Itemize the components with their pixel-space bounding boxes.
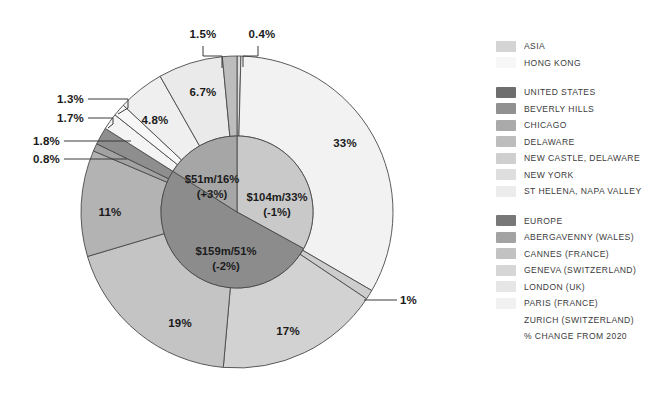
legend-swatch xyxy=(496,87,516,98)
slice-percent-label: 1.5% xyxy=(189,28,216,40)
legend-item-label: DELAWARE xyxy=(524,137,575,147)
slice-percent-label: 0.8% xyxy=(33,153,60,165)
legend-item[interactable]: HONG KONG xyxy=(496,55,652,72)
slice-percent-label: 1% xyxy=(400,294,417,306)
legend-item[interactable]: CANNES (FRANCE) xyxy=(496,246,652,263)
legend-item-label: ABERGAVENNY (WALES) xyxy=(524,232,634,242)
slice-percent-label: 1.8% xyxy=(33,135,60,147)
legend-swatch xyxy=(496,331,516,342)
legend-item[interactable]: GENEVA (SWITZERLAND) xyxy=(496,262,652,279)
region-amount: $159m/51% xyxy=(196,245,257,257)
legend-group-asia-group: ASIAHONG KONG xyxy=(496,38,652,71)
legend-item[interactable]: NEW YORK xyxy=(496,167,652,184)
legend-group-united-states-group: UNITED STATESBEVERLY HILLSCHICAGODELAWAR… xyxy=(496,84,652,200)
legend-item-label: CANNES (FRANCE) xyxy=(524,249,609,259)
legend-item[interactable]: ST HELENA, NAPA VALLEY xyxy=(496,183,652,200)
slice-percent-label: 11% xyxy=(99,206,122,218)
legend-swatch xyxy=(496,103,516,114)
legend-swatch xyxy=(496,314,516,325)
legend-swatch xyxy=(496,298,516,309)
legend-swatch xyxy=(496,232,516,243)
legend-swatch xyxy=(496,215,516,226)
legend-swatch xyxy=(496,41,516,52)
legend-item-label: ASIA xyxy=(524,41,545,51)
legend-item[interactable]: % CHANGE FROM 2020 xyxy=(496,328,652,345)
legend-swatch xyxy=(496,186,516,197)
slice-percent-label: 4.8% xyxy=(141,114,168,126)
legend-item-label: UNITED STATES xyxy=(524,87,596,97)
legend-item-label: CHICAGO xyxy=(524,120,567,130)
legend-swatch xyxy=(496,120,516,131)
legend-swatch xyxy=(496,57,516,68)
region-amount: $51m/16% xyxy=(185,173,240,185)
legend-swatch xyxy=(496,281,516,292)
slice-percent-label: 17% xyxy=(276,325,300,337)
legend-item-label: NEW YORK xyxy=(524,170,574,180)
legend-item[interactable]: BEVERLY HILLS xyxy=(496,101,652,118)
legend-item[interactable]: DELAWARE xyxy=(496,134,652,151)
slice-percent-label: 1.3% xyxy=(57,93,84,105)
region-change: (-2%) xyxy=(212,260,240,272)
legend-item[interactable]: PARIS (FRANCE) xyxy=(496,295,652,312)
legend-item-label: PARIS (FRANCE) xyxy=(524,298,598,308)
legend-group-europe-group: EUROPEABERGAVENNY (WALES)CANNES (FRANCE)… xyxy=(496,213,652,345)
legend-swatch xyxy=(496,169,516,180)
legend-item-label: ST HELENA, NAPA VALLEY xyxy=(524,186,642,196)
legend-item-label: LONDON (UK) xyxy=(524,282,585,292)
legend-item[interactable]: LONDON (UK) xyxy=(496,279,652,296)
slice-percent-label: 1.7% xyxy=(57,112,84,124)
pie-chart-svg: 1.5%0.4%6.7%4.8%1.3%1.7%1.8%0.8%33%1%11%… xyxy=(0,0,492,401)
legend-item-label: BEVERLY HILLS xyxy=(524,104,594,114)
slice-percent-label: 19% xyxy=(168,317,192,329)
donut-chart: 1.5%0.4%6.7%4.8%1.3%1.7%1.8%0.8%33%1%11%… xyxy=(0,0,492,401)
legend-item[interactable]: ZURICH (SWITZERLAND) xyxy=(496,312,652,329)
region-amount: $104m/33% xyxy=(247,191,308,203)
region-change: (-1%) xyxy=(263,206,291,218)
slice-percent-label: 0.4% xyxy=(248,28,275,40)
legend-item-label: GENEVA (SWITZERLAND) xyxy=(524,265,636,275)
legend-item-label: NEW CASTLE, DELAWARE xyxy=(524,153,640,163)
legend-item[interactable]: EUROPE xyxy=(496,213,652,230)
legend-item[interactable]: CHICAGO xyxy=(496,117,652,134)
legend-item-label: EUROPE xyxy=(524,216,563,226)
legend-item[interactable]: NEW CASTLE, DELAWARE xyxy=(496,150,652,167)
region-change: (+3%) xyxy=(197,188,228,200)
legend-item[interactable]: UNITED STATES xyxy=(496,84,652,101)
slice-percent-label: 33% xyxy=(333,137,357,149)
legend-item[interactable]: ABERGAVENNY (WALES) xyxy=(496,229,652,246)
slice-percent-label: 6.7% xyxy=(189,86,216,98)
legend-swatch xyxy=(496,136,516,147)
legend-item-label: ZURICH (SWITZERLAND) xyxy=(524,315,634,325)
legend-swatch xyxy=(496,265,516,276)
legend-swatch xyxy=(496,153,516,164)
legend-swatch xyxy=(496,248,516,259)
legend-item-label: HONG KONG xyxy=(524,58,581,68)
legend-item-label: % CHANGE FROM 2020 xyxy=(524,331,627,341)
chart-legend: ASIAHONG KONGUNITED STATESBEVERLY HILLSC… xyxy=(496,38,652,358)
legend-item[interactable]: ASIA xyxy=(496,38,652,55)
